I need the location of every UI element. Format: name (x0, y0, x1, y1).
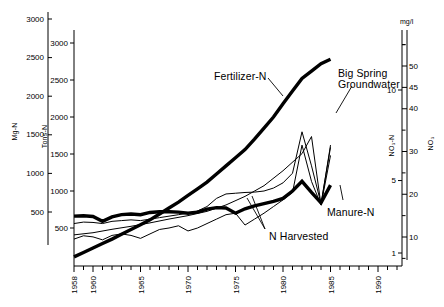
svg-text:45: 45 (409, 83, 418, 92)
axis-lines (48, 12, 407, 266)
svg-text:1970: 1970 (184, 275, 193, 293)
svg-text:2500: 2500 (50, 76, 68, 85)
annotation-n-harvested: N Harvested (269, 231, 328, 242)
axis-title-tons-n: Tons-N (41, 125, 48, 148)
svg-text:500: 500 (31, 208, 45, 217)
annotation-manure-n: Manure-N (327, 207, 374, 218)
svg-text:3000: 3000 (50, 39, 68, 48)
svg-text:50: 50 (409, 62, 418, 71)
axis-title-no3-n: NO₃-N (388, 135, 395, 157)
chart-plot-svg: 5001000150020002500300050010001500200025… (0, 0, 444, 307)
annotation-big-spring-line2: Groundwater (338, 79, 400, 90)
svg-text:3000: 3000 (26, 15, 44, 24)
svg-text:1000: 1000 (50, 187, 68, 196)
svg-text:1958: 1958 (70, 275, 79, 293)
svg-text:1000: 1000 (26, 169, 44, 178)
annotation-big-spring-groundwater: Big Spring Groundwater (338, 68, 400, 89)
axis-title-mg-n: Mg-N (11, 123, 18, 141)
annotation-fertilizer-n: Fertilizer-N (214, 71, 267, 82)
svg-text:1965: 1965 (137, 275, 146, 293)
svg-text:40: 40 (409, 104, 418, 113)
svg-text:30: 30 (409, 147, 418, 156)
svg-text:2000: 2000 (50, 113, 68, 122)
svg-text:1990: 1990 (374, 275, 383, 293)
svg-text:1985: 1985 (327, 275, 336, 293)
data-series-group (74, 59, 331, 257)
axis-unit-mg-per-l: mg/l (400, 18, 413, 25)
svg-text:1960: 1960 (89, 275, 98, 293)
svg-text:1500: 1500 (50, 150, 68, 159)
svg-text:2500: 2500 (26, 53, 44, 62)
svg-text:5: 5 (392, 176, 397, 185)
svg-text:1980: 1980 (279, 275, 288, 293)
svg-text:1975: 1975 (232, 275, 241, 293)
axis-title-no3: NO₃ (427, 137, 434, 151)
axis-ticks (48, 19, 407, 272)
svg-text:1: 1 (392, 249, 397, 258)
svg-text:500: 500 (55, 224, 69, 233)
chart-figure: 5001000150020002500300050010001500200025… (0, 0, 444, 307)
svg-text:20: 20 (409, 190, 418, 199)
svg-text:10: 10 (409, 233, 418, 242)
svg-text:2000: 2000 (26, 92, 44, 101)
annotation-big-spring-line1: Big Spring (338, 68, 400, 79)
